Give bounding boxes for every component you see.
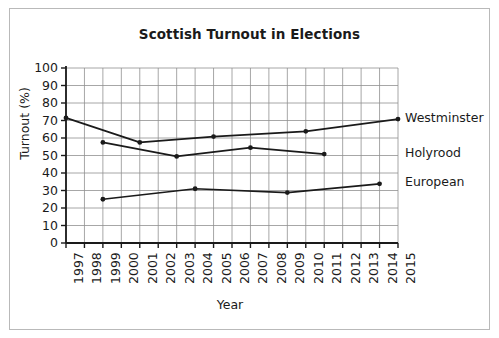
y-axis-tick-label: 90 <box>32 78 58 93</box>
data-point <box>100 140 105 145</box>
data-point <box>322 152 327 157</box>
series-label-european: European <box>405 174 465 189</box>
x-axis-tick-label: 2001 <box>145 252 160 284</box>
x-axis-tick-label: 2015 <box>403 252 418 284</box>
x-axis-tick-label: 2000 <box>126 252 141 284</box>
y-axis-tick-label: 80 <box>32 95 58 110</box>
x-axis-tick-label: 2007 <box>255 252 270 284</box>
y-axis-tick-label: 40 <box>32 165 58 180</box>
data-point <box>100 197 105 202</box>
data-point <box>285 190 290 195</box>
y-axis-tick-label: 30 <box>32 183 58 198</box>
x-axis-tick-label: 2011 <box>329 252 344 284</box>
y-axis-tick-label: 60 <box>32 130 58 145</box>
y-axis-tick-label: 50 <box>32 148 58 163</box>
plot-area <box>0 0 499 338</box>
x-axis-tick-label: 2012 <box>348 252 363 284</box>
chart-figure: Scottish Turnout in Elections Turnout (%… <box>0 0 499 338</box>
y-axis-tick-label: 0 <box>32 235 58 250</box>
x-axis-tick-label: 2002 <box>163 252 178 284</box>
x-axis-tick-label: 2006 <box>237 252 252 284</box>
data-point <box>137 140 142 145</box>
x-axis-tick-label: 2008 <box>274 252 289 284</box>
series-label-westminster: Westminster <box>405 110 484 125</box>
x-axis-tick-label: 2014 <box>385 252 400 284</box>
x-axis-tick-label: 2003 <box>182 252 197 284</box>
x-axis-tick-label: 2004 <box>200 252 215 284</box>
x-axis-tick-label: 1997 <box>71 252 86 284</box>
data-point <box>248 145 253 150</box>
data-point <box>303 129 308 134</box>
x-axis-tick-label: 2010 <box>311 252 326 284</box>
series-line-european <box>103 184 380 199</box>
y-axis-tick-label: 100 <box>32 60 58 75</box>
series-label-holyrood: Holyrood <box>405 145 461 160</box>
data-point <box>211 134 216 139</box>
x-axis-tick-label: 2013 <box>366 252 381 284</box>
data-point <box>193 186 198 191</box>
y-axis-tick-label: 10 <box>32 218 58 233</box>
data-point <box>64 115 69 120</box>
data-point <box>396 117 401 122</box>
x-axis-tick-label: 1998 <box>89 252 104 284</box>
x-axis-tick-label: 1999 <box>108 252 123 284</box>
x-axis-tick-label: 2009 <box>292 252 307 284</box>
data-point <box>377 181 382 186</box>
x-axis-tick-label: 2005 <box>219 252 234 284</box>
y-axis-tick-label: 20 <box>32 200 58 215</box>
y-axis-tick-label: 70 <box>32 113 58 128</box>
data-point <box>174 154 179 159</box>
